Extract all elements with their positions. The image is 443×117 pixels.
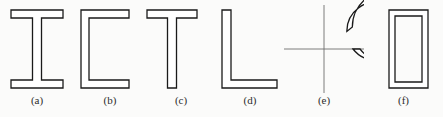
- shape-cell-c: (c): [146, 0, 216, 117]
- shape-label-b: (b): [74, 94, 146, 107]
- shape-label-a: (a): [0, 94, 74, 107]
- shape-label-e: (e): [284, 94, 364, 107]
- shape-cell-f: (f): [364, 0, 443, 117]
- shape-label-c: (c): [146, 94, 216, 107]
- cross-section-figure: (a) (b) (c) (d) (e) (f): [0, 0, 443, 117]
- shape-cell-a: (a): [0, 0, 74, 117]
- shape-cell-e: (e): [284, 0, 364, 117]
- shape-label-d: (d): [216, 94, 284, 107]
- shape-cell-d: (d): [216, 0, 284, 117]
- shape-cell-b: (b): [74, 0, 146, 117]
- shape-label-f: (f): [364, 94, 443, 107]
